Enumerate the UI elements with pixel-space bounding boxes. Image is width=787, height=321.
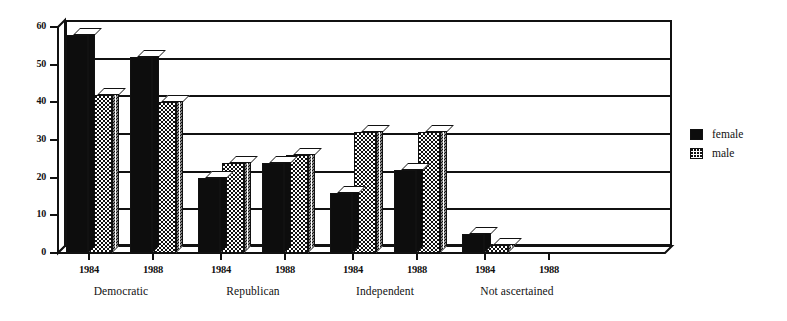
bar-side-face <box>352 186 359 253</box>
bar-front-face <box>394 170 416 253</box>
bar-side-face <box>440 125 447 253</box>
bar-female <box>394 170 416 253</box>
x-year-label: 1984 <box>455 264 515 275</box>
x-year-label: 1984 <box>323 264 383 275</box>
x-group-label: Democratic <box>46 285 196 297</box>
legend-item-female: female <box>690 128 743 140</box>
x-year-label: 1988 <box>255 264 315 275</box>
x-year-label: 1988 <box>519 264 579 275</box>
x-group-label: Republican <box>178 285 328 297</box>
bar-side-face <box>112 88 119 253</box>
legend-swatch-male <box>690 148 703 159</box>
bar-chart: 6050403020100 19841988Democratic19841988… <box>0 0 787 321</box>
x-tick-mark <box>484 253 486 260</box>
bar-female <box>330 193 352 253</box>
x-tick-mark <box>416 253 418 260</box>
legend-label: male <box>712 147 734 159</box>
x-year-label: 1984 <box>191 264 251 275</box>
bar-front-face <box>130 57 152 253</box>
bar-female <box>66 35 88 253</box>
bar-front-face <box>198 178 220 253</box>
bar-side-face <box>152 50 159 253</box>
bar-side-face <box>220 171 227 253</box>
bar-side-face <box>416 163 423 253</box>
x-tick-mark <box>152 253 154 260</box>
x-group-label: Not ascertained <box>442 285 592 297</box>
bar-female <box>130 57 152 253</box>
legend-swatch-female <box>690 129 703 140</box>
bar-side-face <box>88 28 95 253</box>
bar-front-face <box>262 163 284 253</box>
bar-female <box>462 234 484 253</box>
bar-side-face <box>308 148 315 253</box>
x-tick-mark <box>352 253 354 260</box>
bar-side-face <box>376 125 383 253</box>
bar-side-face <box>284 156 291 253</box>
x-tick-mark <box>220 253 222 260</box>
legend-label: female <box>712 128 743 140</box>
x-year-label: 1988 <box>123 264 183 275</box>
x-group-label: Independent <box>310 285 460 297</box>
x-tick-mark <box>284 253 286 260</box>
bar-front-face <box>66 35 88 253</box>
bar-front-face <box>330 193 352 253</box>
bar-female <box>198 178 220 253</box>
x-tick-mark <box>548 253 550 260</box>
bar-side-face <box>244 156 251 253</box>
x-year-label: 1988 <box>387 264 447 275</box>
x-tick-mark <box>88 253 90 260</box>
bar-side-face <box>176 95 183 253</box>
legend-item-male: male <box>690 147 734 159</box>
x-year-label: 1984 <box>59 264 119 275</box>
bar-front-face <box>462 234 484 253</box>
bar-female <box>262 163 284 253</box>
